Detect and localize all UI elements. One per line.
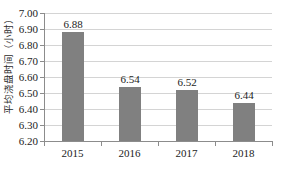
y-axis-tick (40, 45, 44, 46)
y-axis-tick (40, 29, 44, 30)
y-axis-tick-label: 6.80 (4, 40, 38, 51)
y-axis-tick-label: 6.90 (4, 24, 38, 35)
y-axis-tick-label: 6.40 (4, 104, 38, 115)
y-axis-tick (40, 93, 44, 94)
y-axis-tick (40, 61, 44, 62)
y-axis-tick-label: 7.00 (4, 8, 38, 19)
gridline (44, 13, 272, 14)
bar-value-label: 6.88 (51, 19, 95, 30)
bar[interactable] (119, 87, 141, 141)
y-axis-line (44, 13, 45, 142)
bar-value-label: 6.52 (165, 77, 209, 88)
x-axis-tick (44, 142, 45, 146)
bar[interactable] (176, 90, 198, 141)
x-axis-tick-label: 2016 (101, 147, 158, 159)
y-axis-tick (40, 77, 44, 78)
y-axis-tick (40, 109, 44, 110)
y-axis-tick-label: 6.30 (4, 120, 38, 131)
bar[interactable] (62, 32, 84, 141)
y-axis-tick-labels: 7.006.906.806.706.606.506.406.306.20 (0, 0, 38, 171)
x-axis-tick (272, 142, 273, 146)
x-axis-tick (101, 142, 102, 146)
y-axis-tick-label: 6.20 (4, 136, 38, 147)
x-axis-tick-label: 2015 (44, 147, 101, 159)
bar-chart: 平均浇盘时间（小时） 7.006.906.806.706.606.506.406… (0, 0, 283, 171)
x-axis-tick-label: 2017 (158, 147, 215, 159)
x-axis-tick (215, 142, 216, 146)
y-axis-tick (40, 125, 44, 126)
y-axis-tick (40, 13, 44, 14)
bar-value-label: 6.44 (222, 90, 266, 101)
y-axis-tick-label: 6.50 (4, 88, 38, 99)
bar-value-label: 6.54 (108, 74, 152, 85)
y-axis-tick-label: 6.60 (4, 72, 38, 83)
y-axis-tick-label: 6.70 (4, 56, 38, 67)
x-axis-tick-label: 2018 (215, 147, 272, 159)
plot-area (44, 13, 272, 141)
bar[interactable] (233, 103, 255, 141)
x-axis-tick (158, 142, 159, 146)
